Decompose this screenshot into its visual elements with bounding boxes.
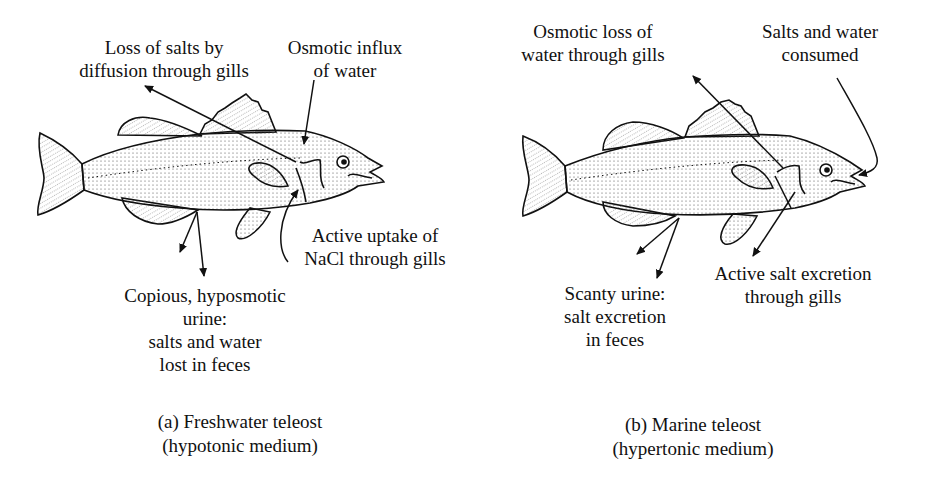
arrow-urine <box>197 212 204 276</box>
label-water-influx: Osmotic influx of water <box>270 36 420 82</box>
label-consumed: Salts and water consumed <box>740 20 900 66</box>
panel-freshwater-teleost: Loss of salts by diffusion through gills… <box>0 0 465 494</box>
label-water-loss: Osmotic loss of water through gills <box>503 20 683 66</box>
fish-body <box>38 94 384 239</box>
panel-marine-teleost: Osmotic loss of water through gills Salt… <box>465 0 931 494</box>
fish-body <box>523 100 865 244</box>
label-urine: Copious, hyposmotic urine: salts and wat… <box>100 284 310 376</box>
caption-freshwater: (a) Freshwater teleost (hypotonic medium… <box>130 410 350 458</box>
label-nacl-uptake: Active uptake of NaCl through gills <box>290 224 460 270</box>
label-urine: Scanty urine: salt excretion in feces <box>545 282 685 351</box>
label-salt-loss: Loss of salts by diffusion through gills <box>64 36 264 82</box>
caption-marine: (b) Marine teleost (hypertonic medium) <box>583 413 803 461</box>
label-salt-excretion: Active salt excretion through gills <box>693 262 893 308</box>
